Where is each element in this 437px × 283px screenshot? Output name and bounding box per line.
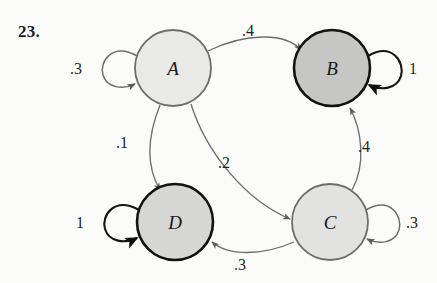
edge-c-to-d [212,242,294,253]
node-b[interactable]: B [294,30,370,106]
state-diagram: A B C D .4 .1 .2 .4 .3 .3 1 .3 1 [0,0,437,283]
node-d-label: D [167,212,182,233]
node-b-label: B [326,58,338,79]
node-a[interactable]: A [135,30,211,106]
self-loop-c [366,205,400,242]
node-a-label: A [165,58,179,79]
node-c[interactable]: C [292,184,368,260]
edge-a-to-d [150,105,160,190]
edge-label-c-to-b: .4 [358,138,370,155]
self-loop-label-d: 1 [76,214,84,231]
figure-page: 23. [0,0,437,283]
edge-label-c-to-d: .3 [234,256,246,273]
edge-label-a-to-d: .1 [116,134,128,151]
edge-label-a-to-b: .4 [242,22,254,39]
self-loop-label-c: .3 [406,214,418,231]
edge-label-a-to-c: .2 [218,154,230,171]
edge-a-to-b [208,37,301,51]
self-loop-b [368,51,402,88]
node-d[interactable]: D [137,184,213,260]
self-loop-label-b: 1 [409,60,417,77]
self-loop-label-a: .3 [70,60,82,77]
self-loop-a [102,51,137,87]
node-c-label: C [324,212,337,233]
self-loop-d [104,205,139,241]
